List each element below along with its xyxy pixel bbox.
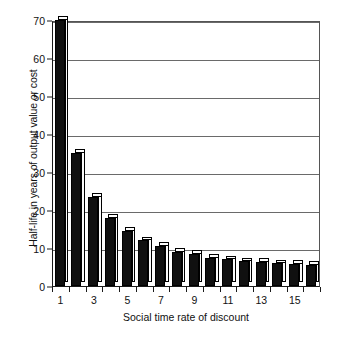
bar [239, 258, 253, 286]
x-tick-label: 5 [124, 294, 130, 306]
bar-front-face [172, 252, 182, 286]
bar-side-face [65, 16, 69, 282]
x-tick-mark [287, 287, 288, 292]
bar [256, 258, 270, 286]
bar-front-face [306, 265, 316, 286]
x-axis-title: Social time rate of discount [52, 311, 320, 323]
x-tick-mark [203, 287, 204, 292]
bar-front-face [272, 263, 282, 286]
x-tick-label: 7 [158, 294, 164, 306]
x-tick-mark [169, 287, 170, 292]
x-tick-label: 3 [91, 294, 97, 306]
y-tick-label: 50 [33, 91, 45, 103]
bar-side-face [215, 254, 219, 283]
x-tick-mark [270, 287, 271, 292]
bar [306, 261, 320, 286]
bar-side-face [148, 237, 152, 283]
bar-side-face [132, 227, 136, 282]
bar [88, 193, 102, 286]
bar-front-face [138, 240, 148, 286]
y-tick-label: 0 [39, 281, 45, 293]
chart-figure: Half-life in years of output value or co… [0, 0, 340, 338]
bar-series [53, 22, 319, 286]
x-tick-mark [153, 287, 154, 292]
bar-front-face [155, 246, 165, 286]
bar [55, 16, 69, 286]
x-tick-mark [303, 287, 304, 292]
bar-side-face [165, 242, 169, 282]
bar [272, 260, 286, 286]
x-tick-mark [69, 287, 70, 292]
bar-side-face [199, 250, 203, 282]
y-tick-label: 70 [33, 15, 45, 27]
x-tick-label: 13 [256, 294, 268, 306]
y-tick-label: 30 [33, 167, 45, 179]
bar-side-face [81, 149, 85, 282]
bar [189, 250, 203, 286]
bar [172, 248, 186, 286]
bar-side-face [115, 214, 119, 282]
y-tick-label: 20 [33, 205, 45, 217]
y-axis-ticks: 010203040506070 [0, 0, 52, 338]
bar-front-face [88, 197, 98, 286]
bar-front-face [55, 20, 65, 286]
x-tick-label: 15 [289, 294, 301, 306]
x-tick-mark [102, 287, 103, 292]
bar-front-face [71, 153, 81, 286]
bar-front-face [222, 259, 232, 286]
x-tick-label: 11 [222, 294, 233, 306]
bar [289, 260, 303, 286]
x-tick-mark [320, 287, 321, 292]
x-tick-mark [119, 287, 120, 292]
x-tick-mark [86, 287, 87, 292]
bar [71, 149, 85, 286]
y-tick-label: 10 [33, 243, 45, 255]
bar-side-face [232, 256, 236, 283]
x-tick-mark [220, 287, 221, 292]
bar-front-face [122, 231, 132, 286]
x-tick-mark [52, 287, 53, 292]
bar [155, 242, 169, 286]
bar-front-face [289, 264, 299, 286]
bar-front-face [205, 258, 215, 287]
bar [122, 227, 136, 286]
bar [138, 237, 152, 286]
bar-side-face [182, 248, 186, 282]
bar-front-face [256, 262, 266, 286]
x-tick-mark [236, 287, 237, 292]
bar-side-face [249, 258, 253, 283]
bar [205, 254, 219, 286]
x-tick-mark [186, 287, 187, 292]
bar [222, 256, 236, 286]
y-tick-label: 40 [33, 129, 45, 141]
bar [105, 214, 119, 286]
x-tick-mark [136, 287, 137, 292]
bar-side-face [98, 193, 102, 282]
x-tick-label: 1 [57, 294, 63, 306]
y-tick-label: 60 [33, 53, 45, 65]
bar-front-face [105, 218, 115, 286]
x-tick-label: 9 [191, 294, 197, 306]
bar-front-face [189, 254, 199, 286]
bar-front-face [239, 261, 249, 286]
plot-area [52, 21, 320, 287]
x-tick-mark [253, 287, 254, 292]
